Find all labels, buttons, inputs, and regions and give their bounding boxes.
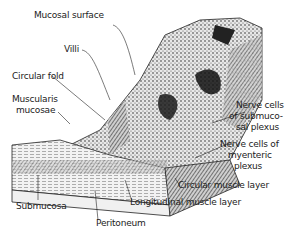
label-villi: Villi <box>64 44 79 54</box>
label-muscularis-mucosae-line2: mucosae <box>16 105 55 115</box>
label-submucosa: Submucosa <box>16 201 66 211</box>
label-nerve-submucosal-line3: sal plexus <box>236 122 279 132</box>
label-mucosal-surface: Mucosal surface <box>34 10 104 20</box>
label-nerve-myenteric-line2: myenteric <box>228 150 272 160</box>
label-circular-muscle-layer: Circular muscle layer <box>178 180 269 190</box>
label-longitudinal-muscle-layer: Longitudinal muscle layer <box>130 197 241 207</box>
label-nerve-myenteric-line3: plexus <box>234 161 262 171</box>
label-circular-fold: Circular fold <box>12 71 64 81</box>
label-peritoneum: Peritoneum <box>96 218 146 228</box>
label-nerve-submucosal-line2: of submuco- <box>229 111 283 121</box>
label-nerve-submucosal-line1: Nerve cells <box>236 100 284 110</box>
label-nerve-myenteric-line1: Nerve cells of <box>220 139 279 149</box>
label-muscularis-mucosae-line1: Muscularis <box>12 94 58 104</box>
